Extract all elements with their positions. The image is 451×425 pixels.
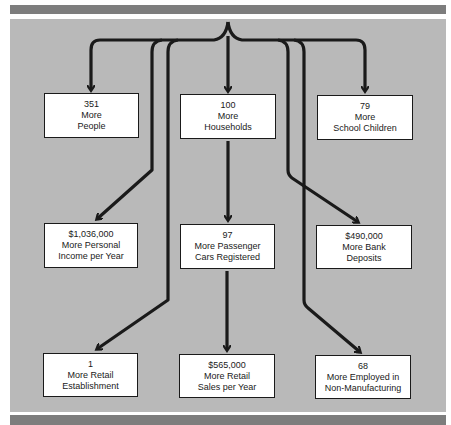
box-label: Cars Registered [195,252,260,263]
box-value: 1 [88,359,93,370]
box-passenger-cars: 97 More Passenger Cars Registered [180,224,275,269]
box-label: Sales per Year [198,382,257,393]
box-label: More Retail [204,371,250,382]
box-label: More [218,111,239,122]
box-label: More [81,110,102,121]
box-label: People [77,121,105,132]
box-retail-sales: $565,000 More Retail Sales per Year [179,354,275,398]
box-value: $1,036,000 [68,229,113,240]
box-label: Income per Year [58,251,124,262]
box-label: School Children [333,123,397,134]
box-label: Establishment [62,381,119,392]
box-people: 351 More People [44,93,139,138]
box-bank-deposits: $490,000 More Bank Deposits [316,225,412,269]
box-retail-establishment: 1 More Retail Establishment [43,353,138,397]
box-label: More Bank [342,242,386,253]
box-label: More [355,112,376,123]
box-households: 100 More Households [180,94,276,139]
box-value: 79 [360,101,370,112]
box-value: 351 [84,99,99,110]
box-label: More Personal [62,240,121,251]
box-label: More Employed in [327,372,400,383]
box-label: Deposits [346,253,381,264]
arrow-employed [294,40,360,352]
box-value: 100 [220,100,235,111]
box-label: More Retail [67,370,113,381]
box-school-children: 79 More School Children [317,95,413,140]
box-label: Non-Manufacturing [325,383,402,394]
arrow-retail-est [97,40,178,349]
bottom-rule-bar [10,415,446,425]
brace-right [228,22,365,91]
box-value: 97 [222,230,232,241]
box-label: More Passenger [194,241,260,252]
box-label: Households [204,122,252,133]
box-employed-non-manufacturing: 68 More Employed in Non-Manufacturing [315,355,411,399]
box-value: $490,000 [345,231,383,242]
box-value: $565,000 [208,360,246,371]
box-personal-income: $1,036,000 More Personal Income per Year [44,223,138,268]
box-value: 68 [358,361,368,372]
brace-left [91,22,228,90]
